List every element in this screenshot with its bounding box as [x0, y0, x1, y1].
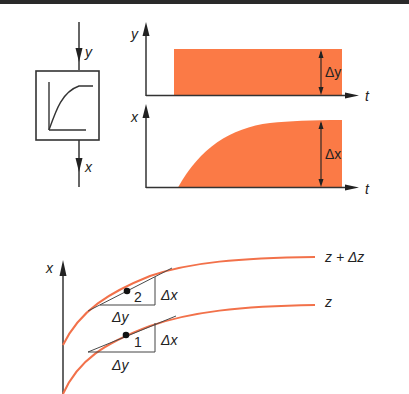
curve-label-z-plus-dz: z + Δz	[324, 249, 364, 265]
diagram-canvas: y x y t Δy x t Δx	[0, 0, 409, 394]
step-response-chart: x t Δx	[130, 104, 370, 197]
lag-curve-icon	[49, 82, 93, 130]
t-axis-arrow-icon	[345, 185, 359, 191]
operating-point-1	[123, 332, 130, 339]
block-output-label: x	[84, 159, 93, 175]
delta-y-label: Δy	[325, 64, 341, 80]
curve-z-plus-dz	[63, 257, 315, 345]
t-axis-label: t	[365, 88, 370, 104]
delta-x-label-2: Δx	[160, 287, 178, 303]
t-axis-label: t	[365, 181, 370, 197]
delta-x-label-1: Δx	[160, 332, 178, 348]
step-input-chart: y t Δy	[130, 22, 370, 104]
characteristic-chart: x z + Δz z 2 Δx Δy 1 Δx Δy	[45, 249, 364, 394]
transfer-block: y x	[36, 22, 99, 187]
delta-x-label: Δx	[325, 146, 341, 162]
output-arrow-icon	[76, 158, 83, 172]
x-axis-arrow-icon	[60, 260, 67, 276]
block-input-label: y	[84, 44, 93, 60]
t-axis-arrow-icon	[345, 93, 359, 99]
x-axis-label: x	[130, 109, 139, 125]
point-label-1: 1	[134, 334, 142, 350]
step-response-area	[178, 120, 342, 188]
delta-y-label-1: Δy	[111, 357, 129, 373]
curve-z	[63, 305, 315, 394]
curve-label-z: z	[324, 294, 332, 310]
y-axis-arrow-icon	[143, 22, 150, 36]
point-label-2: 2	[134, 289, 142, 305]
operating-point-2	[124, 288, 131, 295]
step-input-area	[174, 49, 342, 95]
y-axis-label: y	[130, 26, 139, 42]
x-axis-label: x	[45, 260, 54, 276]
delta-y-label-2: Δy	[111, 309, 129, 325]
input-arrow-icon	[76, 48, 83, 62]
x-axis-arrow-icon	[143, 104, 150, 118]
